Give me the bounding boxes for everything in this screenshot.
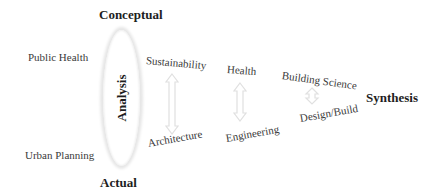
public-health-label: Public Health <box>28 52 88 63</box>
synthesis-label: Synthesis <box>366 91 418 104</box>
design-build-label: Design/Build <box>299 103 359 124</box>
engineering-label: Engineering <box>225 124 280 144</box>
actual-label: Actual <box>100 176 137 187</box>
health-label: Health <box>227 64 257 77</box>
conceptual-label: Conceptual <box>99 8 163 21</box>
analysis-ellipse: Analysis <box>103 30 140 166</box>
double-arrow-icon <box>165 73 179 135</box>
building-science-label: Building Science <box>281 70 357 91</box>
architecture-label: Architecture <box>147 129 203 149</box>
sustainability-label: Sustainability <box>146 55 207 71</box>
urban-planning-label: Urban Planning <box>25 150 94 161</box>
analysis-label: Analysis <box>114 75 130 122</box>
double-arrow-icon <box>233 82 247 122</box>
double-arrow-icon <box>305 87 319 105</box>
